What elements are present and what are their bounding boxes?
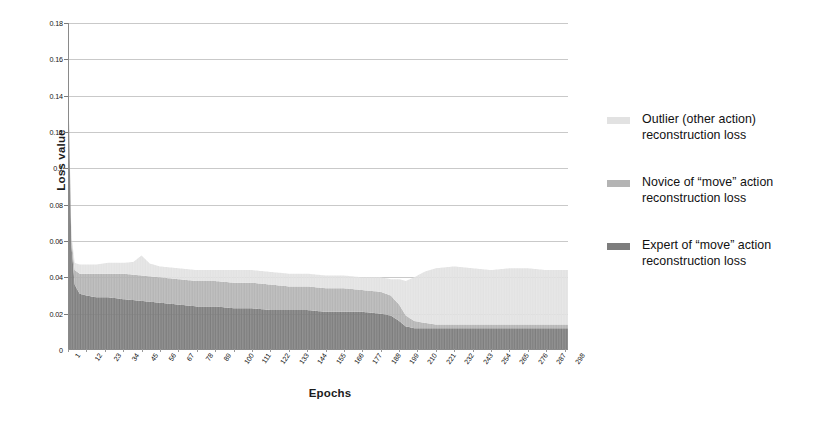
plot-frame <box>68 23 568 350</box>
x-tick-label: 166 <box>353 352 365 365</box>
x-tick-label: 1 <box>74 352 82 359</box>
x-tick-mark <box>381 349 382 352</box>
legend-label-line1: Expert of “move” action <box>642 238 771 254</box>
x-tick-mark <box>436 349 437 352</box>
x-tick-mark <box>509 349 510 352</box>
x-tick-mark <box>270 349 271 352</box>
x-tick-mark <box>565 349 566 352</box>
y-tick-label: 0.06 <box>49 237 63 246</box>
x-tick-mark <box>178 349 179 352</box>
x-tick-label: 133 <box>298 352 310 365</box>
x-axis-ticks: 1122334455667788910011112213314415516617… <box>68 352 568 386</box>
y-tick-label: 0.16 <box>49 55 63 64</box>
chart-legend: Outlier (other action)reconstruction los… <box>607 112 813 302</box>
y-tick-mark <box>64 23 68 24</box>
x-tick-label: 78 <box>204 352 214 362</box>
legend-label-line2: reconstruction loss <box>642 191 773 207</box>
x-tick-mark <box>473 349 474 352</box>
x-tick-label: 243 <box>482 352 494 365</box>
y-tick-mark <box>64 314 68 315</box>
y-tick-mark <box>64 241 68 242</box>
x-tick-mark <box>142 349 143 352</box>
x-tick-mark <box>417 349 418 352</box>
y-tick-label: 0.1 <box>53 164 63 173</box>
y-tick-mark <box>64 96 68 97</box>
y-tick-mark <box>64 59 68 60</box>
legend-label: Expert of “move” actionreconstruction lo… <box>642 238 771 269</box>
legend-swatch-icon <box>607 243 630 250</box>
x-tick-mark <box>68 349 69 352</box>
x-tick-label: 155 <box>334 352 346 365</box>
x-tick-label: 210 <box>426 352 438 365</box>
x-tick-mark <box>528 349 529 352</box>
x-tick-label: 56 <box>167 352 177 362</box>
x-tick-label: 199 <box>408 352 420 365</box>
x-tick-label: 67 <box>186 352 196 362</box>
x-tick-label: 221 <box>445 352 457 365</box>
legend-item: Expert of “move” actionreconstruction lo… <box>607 238 813 269</box>
x-tick-mark <box>252 349 253 352</box>
legend-label: Outlier (other action)reconstruction los… <box>642 112 756 143</box>
plot-area: 00.020.040.060.080.10.120.140.160.18 <box>68 23 568 350</box>
y-tick-mark <box>64 132 68 133</box>
x-tick-mark <box>215 349 216 352</box>
y-tick-label: 0 <box>59 346 63 355</box>
x-tick-label: 232 <box>463 352 475 365</box>
x-tick-mark <box>491 349 492 352</box>
x-tick-mark <box>344 349 345 352</box>
y-tick-mark <box>64 168 68 169</box>
y-tick-label: 0.18 <box>49 19 63 28</box>
x-tick-mark <box>546 349 547 352</box>
x-tick-label: 122 <box>279 352 291 365</box>
y-tick-label: 0.12 <box>49 128 63 137</box>
x-tick-mark <box>234 349 235 352</box>
x-tick-mark <box>362 349 363 352</box>
legend-label-line2: reconstruction loss <box>642 254 771 270</box>
x-tick-label: 276 <box>537 352 549 365</box>
y-tick-label: 0.08 <box>49 200 63 209</box>
x-tick-mark <box>86 349 87 352</box>
x-tick-label: 144 <box>316 352 328 365</box>
legend-swatch-icon <box>607 117 630 124</box>
legend-item: Outlier (other action)reconstruction los… <box>607 112 813 143</box>
x-tick-label: 298 <box>573 352 585 365</box>
legend-label-line2: reconstruction loss <box>642 128 756 144</box>
x-tick-mark <box>326 349 327 352</box>
x-axis-title: Epochs <box>230 387 430 399</box>
legend-label-line1: Novice of “move” action <box>642 175 773 191</box>
x-tick-label: 89 <box>222 352 232 362</box>
x-tick-mark <box>454 349 455 352</box>
x-tick-label: 265 <box>518 352 530 365</box>
loss-curve-figure: Loss value 00.020.040.060.080.10.120.140… <box>0 0 821 424</box>
y-tick-mark <box>64 205 68 206</box>
x-tick-label: 45 <box>149 352 159 362</box>
x-tick-label: 100 <box>242 352 254 365</box>
y-tick-mark <box>64 277 68 278</box>
y-tick-label: 0.02 <box>49 309 63 318</box>
y-tick-label: 0.04 <box>49 273 63 282</box>
x-tick-label: 188 <box>390 352 402 365</box>
x-tick-mark <box>307 349 308 352</box>
x-tick-label: 287 <box>555 352 567 365</box>
x-tick-mark <box>399 349 400 352</box>
legend-label: Novice of “move” actionreconstruction lo… <box>642 175 773 206</box>
x-tick-label: 34 <box>130 352 140 362</box>
x-tick-mark <box>289 349 290 352</box>
x-tick-label: 111 <box>260 352 272 364</box>
x-tick-label: 23 <box>112 352 122 362</box>
x-tick-label: 254 <box>500 352 512 365</box>
legend-swatch-icon <box>607 180 630 187</box>
x-tick-mark <box>105 349 106 352</box>
y-tick-label: 0.14 <box>49 91 63 100</box>
legend-label-line1: Outlier (other action) <box>642 112 756 128</box>
x-tick-mark <box>123 349 124 352</box>
legend-item: Novice of “move” actionreconstruction lo… <box>607 175 813 206</box>
x-tick-mark <box>197 349 198 352</box>
x-tick-label: 177 <box>371 352 383 365</box>
x-tick-label: 12 <box>94 352 104 362</box>
x-tick-mark <box>160 349 161 352</box>
